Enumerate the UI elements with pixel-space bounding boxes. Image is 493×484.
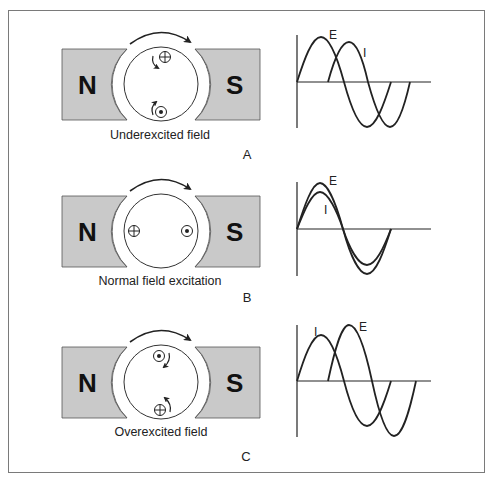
caption-c: Overexcited field <box>114 425 207 439</box>
figure-canvas: N S Underexcited field A <box>0 0 493 484</box>
waveform-chart-b: E I <box>297 174 431 276</box>
south-label-c: S <box>226 368 243 398</box>
waveform-chart-c: I E <box>297 320 431 437</box>
conductor-dot-icon <box>156 107 167 118</box>
caption-b: Normal field excitation <box>99 274 222 288</box>
panel-c: N S Overexcited field C I E <box>62 320 431 464</box>
panel-letter-a: A <box>243 147 252 162</box>
voltage-label-c: E <box>359 320 367 334</box>
current-label-c: I <box>314 325 317 339</box>
panel-letter-b: B <box>243 290 252 305</box>
north-label-a: N <box>78 70 97 100</box>
north-label-b: N <box>78 217 97 247</box>
current-label-a: I <box>363 46 366 60</box>
generator-diagram-b: N S <box>62 179 260 279</box>
conductor-cross-icon <box>155 405 166 416</box>
panel-a: N S Underexcited field A <box>62 28 431 162</box>
south-label-b: S <box>226 217 243 247</box>
conductor-dot-icon <box>154 351 165 362</box>
panel-b: N S Normal field excitation B E I <box>62 174 431 305</box>
voltage-label-b: E <box>329 174 337 188</box>
conductor-cross-icon <box>160 52 171 63</box>
conductor-dot-icon <box>182 226 193 237</box>
current-label-b: I <box>324 203 327 217</box>
south-label-a: S <box>226 70 243 100</box>
waveform-chart-a: E I <box>297 28 431 128</box>
current-wave-a <box>328 42 410 127</box>
generator-diagram-c: N S <box>62 330 260 430</box>
generator-diagram-a: N S <box>62 32 260 132</box>
voltage-label-a: E <box>329 28 337 42</box>
caption-a: Underexcited field <box>110 128 210 142</box>
panel-letter-c: C <box>241 449 250 464</box>
conductor-cross-icon <box>129 226 140 237</box>
north-label-c: N <box>78 368 97 398</box>
